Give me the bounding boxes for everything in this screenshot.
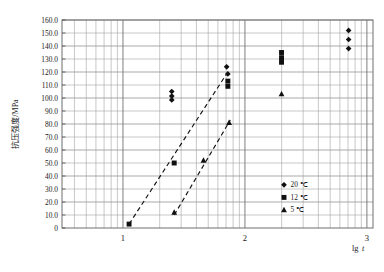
data-point-square: [127, 222, 132, 227]
legend-label: 5 ℃: [291, 205, 305, 214]
data-point-square: [279, 50, 284, 55]
y-tick-label: 30.0: [45, 185, 58, 194]
x-tick-label: 1: [121, 233, 125, 243]
y-tick-label: 90.0: [45, 107, 58, 116]
data-point-square: [279, 55, 284, 60]
y-tick-label: 60.0: [45, 146, 58, 155]
data-point-square: [225, 84, 230, 89]
y-tick-label: 120.0: [41, 68, 58, 77]
y-tick-label: 10.0: [45, 211, 58, 220]
legend-label: 20 ℃: [291, 180, 308, 189]
compressive-strength-scatter-chart: 010.020.030.040.050.060.070.080.090.0100…: [0, 0, 384, 272]
y-tick-label: 110.0: [42, 81, 59, 90]
data-point-square: [225, 79, 230, 84]
chart-container: 010.020.030.040.050.060.070.080.090.0100…: [0, 0, 384, 272]
chart-legend: 20 ℃12 ℃5 ℃: [281, 180, 308, 214]
y-tick-label: 150.0: [41, 29, 58, 38]
x-axis-title-group: lg t: [352, 244, 365, 253]
x-tick-label: 3: [365, 233, 369, 243]
x-axis-title-lg: lg: [352, 244, 359, 253]
y-tick-label: 80.0: [45, 120, 58, 129]
x-tick-label: 2: [243, 233, 247, 243]
y-tick-label: 100.0: [41, 94, 58, 103]
y-tick-label: 70.0: [45, 133, 58, 142]
data-point-square: [279, 60, 284, 65]
y-tick-label: 130.0: [41, 55, 58, 64]
y-tick-label: 40.0: [45, 172, 58, 181]
legend-label: 12 ℃: [291, 193, 308, 202]
y-tick-label: 20.0: [45, 198, 58, 207]
y-tick-label: 160.0: [41, 16, 58, 25]
legend-marker-square: [282, 195, 287, 200]
y-tick-label: 50.0: [45, 159, 58, 168]
data-point-square: [172, 161, 177, 166]
y-tick-label: 140.0: [41, 42, 58, 51]
y-tick-label: 0: [54, 224, 58, 233]
y-axis-title: 抗压强度/MPa: [10, 99, 20, 149]
